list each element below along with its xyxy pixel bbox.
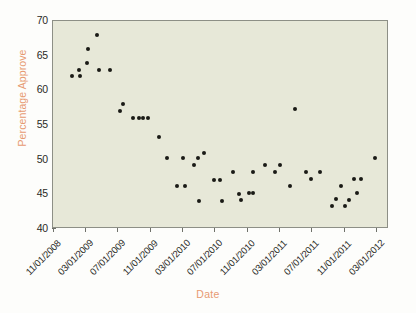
data-point (355, 191, 359, 195)
data-point (231, 170, 235, 174)
data-point (330, 204, 334, 208)
data-point (318, 170, 322, 174)
data-point (108, 68, 112, 72)
y-axis-tick-label: 50 (24, 154, 48, 164)
x-axis-tick-labels: 11/01/200803/01/200907/01/200911/01/2009… (0, 228, 416, 288)
data-point (202, 151, 206, 155)
data-point (293, 107, 297, 111)
data-point (304, 170, 308, 174)
data-point (70, 74, 74, 78)
data-point (197, 199, 201, 203)
data-point (288, 184, 292, 188)
data-point (165, 156, 169, 160)
data-point (273, 170, 277, 174)
data-point (339, 184, 343, 188)
data-point (220, 199, 224, 203)
data-point (352, 177, 356, 181)
y-axis-tick-label: 70 (24, 15, 48, 25)
y-axis-tick-label: 55 (24, 119, 48, 129)
x-axis-title: Date (0, 288, 416, 300)
data-point (181, 156, 185, 160)
scatter-plot-figure: Percentage Approve 70656055504540 11/01/… (0, 0, 416, 313)
data-point (183, 184, 187, 188)
data-point (175, 184, 179, 188)
data-point (196, 156, 200, 160)
y-axis-tick-label: 60 (24, 84, 48, 94)
data-point (278, 163, 282, 167)
data-point (343, 204, 347, 208)
data-point (157, 135, 161, 139)
data-point (95, 33, 99, 37)
data-point (334, 197, 338, 201)
y-axis-tick-label: 45 (24, 188, 48, 198)
data-point (347, 198, 351, 202)
data-point (251, 170, 255, 174)
data-point (146, 116, 150, 120)
data-point (359, 177, 363, 181)
data-point (97, 68, 101, 72)
data-point (131, 116, 135, 120)
data-point (121, 102, 125, 106)
y-axis-tick-label: 65 (24, 50, 48, 60)
data-point (237, 192, 241, 196)
data-point (309, 177, 313, 181)
data-point (118, 109, 122, 113)
data-point (141, 116, 145, 120)
data-point (218, 178, 222, 182)
data-point (78, 74, 82, 78)
data-point (77, 68, 81, 72)
data-point (251, 191, 255, 195)
data-point (212, 178, 216, 182)
data-point (192, 163, 196, 167)
data-point (263, 163, 267, 167)
y-axis-tick-labels: 70656055504540 (22, 20, 48, 228)
data-point (86, 47, 90, 51)
data-point (239, 198, 243, 202)
x-axis-tick-label: 03/01/2012 (346, 237, 386, 277)
plot-area (52, 20, 388, 228)
data-point (85, 61, 89, 65)
data-point (373, 156, 377, 160)
